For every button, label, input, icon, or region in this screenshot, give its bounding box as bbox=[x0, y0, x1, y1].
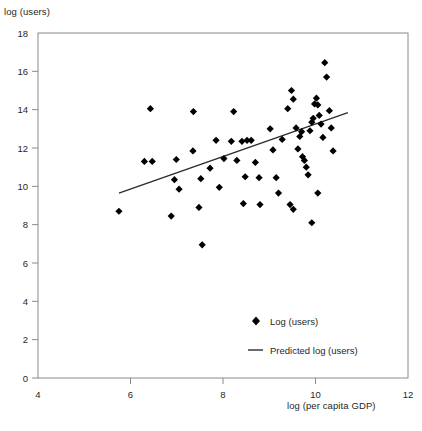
y-tick-label: 0 bbox=[23, 373, 28, 384]
y-tick-label: 16 bbox=[17, 66, 28, 77]
y-tick-label: 10 bbox=[17, 181, 28, 192]
y-axis-ticks: 024681012141618 bbox=[17, 28, 38, 384]
y-axis-title: log (users) bbox=[4, 6, 50, 17]
x-axis-ticks: 4681012 bbox=[35, 378, 413, 400]
legend-label-points: Log (users) bbox=[270, 316, 318, 327]
x-tick-label: 12 bbox=[403, 389, 414, 400]
x-tick-label: 6 bbox=[128, 389, 133, 400]
y-tick-label: 12 bbox=[17, 143, 28, 154]
y-tick-label: 18 bbox=[17, 28, 28, 39]
scatter-plot-svg: 024681012141618 4681012 Log (users) Pred… bbox=[0, 0, 422, 431]
y-tick-label: 14 bbox=[17, 104, 28, 115]
legend-label-line: Predicted log (users) bbox=[270, 345, 358, 356]
y-tick-label: 6 bbox=[23, 258, 28, 269]
x-tick-label: 8 bbox=[220, 389, 225, 400]
y-tick-label: 4 bbox=[23, 296, 28, 307]
x-tick-label: 10 bbox=[310, 389, 321, 400]
plot-frame bbox=[38, 33, 408, 378]
chart-container: log (users) log (per capita GDP) 0246810… bbox=[0, 0, 422, 431]
y-tick-label: 8 bbox=[23, 219, 28, 230]
y-tick-label: 2 bbox=[23, 334, 28, 345]
x-tick-label: 4 bbox=[35, 389, 40, 400]
x-axis-title: log (per capita GDP) bbox=[287, 400, 376, 411]
